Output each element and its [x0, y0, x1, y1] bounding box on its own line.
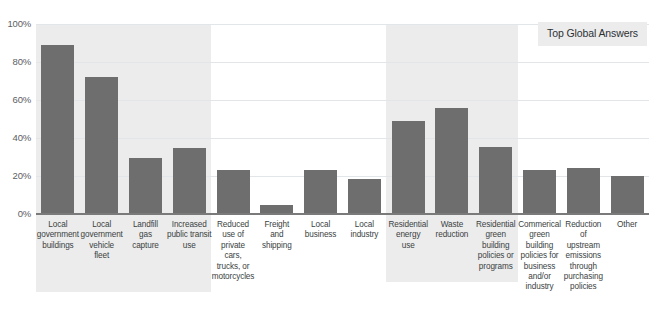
x-axis-category-label: Other: [603, 220, 651, 230]
gridline: [36, 138, 649, 139]
x-axis-label-line: industry: [341, 230, 389, 240]
x-axis-label-line: Residential: [472, 220, 520, 230]
x-axis-category-label: Localgovernmentbuildings: [34, 220, 82, 251]
x-axis-category-label: Localindustry: [341, 220, 389, 241]
x-axis-label-line: energy: [384, 230, 432, 240]
bar[interactable]: [611, 176, 644, 214]
y-axis-tick-label: 80%: [0, 57, 31, 67]
y-axis-tick-label: 100%: [0, 19, 31, 29]
x-axis-label-line: policies or: [472, 251, 520, 261]
x-axis-label-line: Landfill: [122, 220, 170, 230]
x-axis-label-line: use: [165, 241, 213, 251]
x-axis-label-line: emissions: [559, 251, 607, 261]
bar-chart: 0%20%40%60%80%100% Localgovernmentbuildi…: [0, 0, 653, 318]
bar[interactable]: [85, 77, 118, 214]
x-axis-label-line: government: [34, 230, 82, 240]
bar[interactable]: [392, 121, 425, 214]
x-axis-label-line: upstream: [559, 241, 607, 251]
plot-area: [36, 24, 649, 214]
bar[interactable]: [173, 148, 206, 215]
x-axis-category-label: Reductionofupstreamemissionsthroughpurch…: [559, 220, 607, 293]
legend-top-global-answers: Top Global Answers: [538, 22, 647, 46]
x-axis-label-line: Local: [341, 220, 389, 230]
bar[interactable]: [348, 179, 381, 214]
bar[interactable]: [41, 45, 74, 214]
x-axis-label-line: reduction: [428, 230, 476, 240]
x-axis-label-line: green: [516, 230, 564, 240]
x-axis-label-line: building: [472, 241, 520, 251]
x-axis-category-label: Residentialenergyuse: [384, 220, 432, 251]
x-axis-label-line: buildings: [34, 241, 82, 251]
x-axis-label-line: Commerical: [516, 220, 564, 230]
x-axis-label-line: Increased: [165, 220, 213, 230]
x-axis-label-line: gas: [122, 230, 170, 240]
x-axis-label-line: use: [384, 241, 432, 251]
x-axis-label-line: industry: [516, 282, 564, 292]
x-axis-label-line: Freight: [253, 220, 301, 230]
x-axis-label-line: use of: [209, 230, 257, 240]
x-axis-label-line: motorcycles: [209, 272, 257, 282]
x-axis-category-label: Localgovernmentvehiclefleet: [78, 220, 126, 262]
x-axis-category-label: Wastereduction: [428, 220, 476, 241]
x-axis-label-line: private: [209, 241, 257, 251]
x-axis-category-label: Freightandshipping: [253, 220, 301, 251]
x-axis-label-line: through: [559, 262, 607, 272]
y-axis-tick-label: 40%: [0, 133, 31, 143]
bar[interactable]: [523, 170, 556, 214]
x-axis-label-line: business: [516, 262, 564, 272]
x-axis-line: [36, 213, 649, 215]
x-axis-label-line: and: [253, 230, 301, 240]
gridline: [36, 62, 649, 63]
x-axis-label-line: policies for: [516, 251, 564, 261]
x-axis-label-line: public transit: [165, 230, 213, 240]
y-axis-tick-label: 20%: [0, 171, 31, 181]
x-axis-label-line: Local: [34, 220, 82, 230]
x-axis-category-label: Landfillgascapture: [122, 220, 170, 251]
bar[interactable]: [567, 168, 600, 214]
x-axis-label-line: fleet: [78, 251, 126, 261]
bar[interactable]: [435, 108, 468, 214]
bar[interactable]: [129, 158, 162, 214]
x-axis-label-line: Local: [78, 220, 126, 230]
x-axis-label-line: Residential: [384, 220, 432, 230]
gridline: [36, 100, 649, 101]
x-axis-label-line: Other: [603, 220, 651, 230]
y-axis-tick-label: 60%: [0, 95, 31, 105]
bar[interactable]: [304, 170, 337, 214]
x-axis-category-label: Increasedpublic transituse: [165, 220, 213, 251]
x-axis-label-line: business: [297, 230, 345, 240]
x-axis-label-line: programs: [472, 262, 520, 272]
x-axis-label-line: trucks, or: [209, 262, 257, 272]
x-axis-label-line: purchasing: [559, 272, 607, 282]
x-axis-category-label: Reduceduse ofprivatecars,trucks, ormotor…: [209, 220, 257, 282]
x-axis-label-line: building: [516, 241, 564, 251]
x-axis-label-line: shipping: [253, 241, 301, 251]
x-axis-label-line: green: [472, 230, 520, 240]
x-axis-label-line: Reduced: [209, 220, 257, 230]
x-axis-label-line: Local: [297, 220, 345, 230]
x-axis-category-label: Localbusiness: [297, 220, 345, 241]
x-axis-category-label: Commericalgreenbuildingpolicies forbusin…: [516, 220, 564, 293]
x-axis-label-line: vehicle: [78, 241, 126, 251]
x-axis-label-line: capture: [122, 241, 170, 251]
x-axis-label-line: Reduction: [559, 220, 607, 230]
x-axis-label-line: government: [78, 230, 126, 240]
bar[interactable]: [217, 170, 250, 214]
x-axis-category-label: Residentialgreenbuildingpolicies orprogr…: [472, 220, 520, 272]
bar[interactable]: [479, 147, 512, 214]
x-axis-label-line: policies: [559, 282, 607, 292]
x-axis-label-line: of: [559, 230, 607, 240]
x-axis-label-line: and/or: [516, 272, 564, 282]
y-axis-tick-label: 0%: [0, 209, 31, 219]
x-axis-label-line: Waste: [428, 220, 476, 230]
x-axis-label-line: cars,: [209, 251, 257, 261]
